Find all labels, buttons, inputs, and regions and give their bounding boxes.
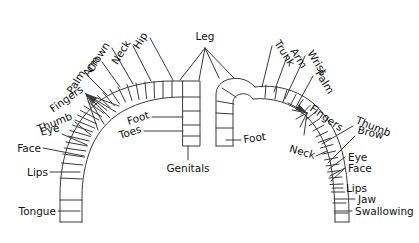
leader-leg-4 [205, 48, 234, 78]
label-swallowing: Swallowing [355, 205, 414, 217]
label-hip: Hip [130, 29, 150, 50]
homunculus-svg: Leg Genitals Hip Neck Crown Arm Palm Fin… [0, 0, 419, 243]
leader-palm-r [296, 76, 313, 107]
leader-hip [150, 38, 173, 80]
right-seg-face2 [330, 184, 343, 185]
right-hook-div2 [216, 113, 233, 114]
label-toes: Toes [116, 122, 143, 141]
leader-leg-1 [180, 48, 205, 80]
left-seg-trunk1 [154, 82, 155, 99]
right-hook-div3 [217, 101, 234, 104]
right-hook-div4 [222, 88, 236, 97]
label-palm-right: Palm [313, 68, 337, 96]
label-face-right: Face [348, 162, 372, 174]
leader-palm-l [88, 76, 107, 95]
left-seg-eye1 [65, 148, 87, 151]
label-jaw: Jaw [357, 193, 377, 205]
left-seg-face [62, 163, 84, 165]
label-neck-left: Neck [109, 37, 134, 66]
leader-trunk-r [262, 46, 272, 87]
left-band-outer [60, 81, 183, 222]
left-seg-neck2 [145, 82, 147, 99]
left-seg-lips [60, 178, 82, 179]
leader-neck [133, 46, 151, 81]
label-leg: Leg [196, 30, 215, 42]
right-seg-brow [326, 164, 339, 166]
label-genitals: Genitals [166, 162, 209, 174]
right-seg-trunk1 [265, 85, 266, 98]
leader-face-l [43, 148, 84, 156]
label-face-left: Face [17, 142, 41, 154]
label-neck-right: Neck [288, 142, 317, 161]
label-fingers-right: Fingers [308, 102, 346, 133]
homunculus-figure: Leg Genitals Hip Neck Crown Arm Palm Fin… [0, 0, 419, 243]
label-tongue: Tongue [18, 205, 57, 217]
label-lips-left: Lips [27, 166, 48, 178]
leader-leg-2 [199, 48, 205, 80]
label-foot-right: Foot [243, 130, 267, 145]
leader-leg-3 [205, 48, 219, 78]
left-seg-neck [136, 83, 139, 100]
